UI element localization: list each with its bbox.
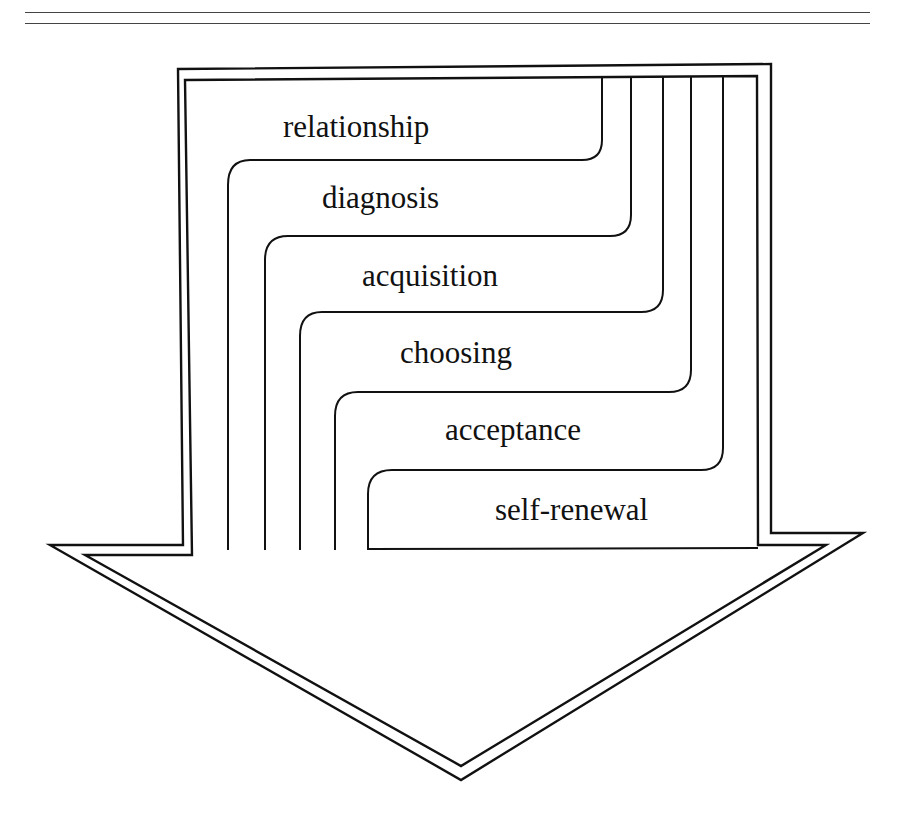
stage-label-choosing: choosing [400, 335, 512, 370]
stage-label-diagnosis: diagnosis [322, 180, 439, 215]
band-divider-1 [228, 77, 602, 550]
stage-label-relationship: relationship [283, 109, 429, 144]
stage-label-acquisition: acquisition [362, 258, 499, 293]
band-divider-4 [335, 77, 691, 550]
stages-arrow-diagram: relationship diagnosis acquisition choos… [0, 0, 910, 815]
stage-label-self-renewal: self-renewal [495, 492, 648, 527]
band-divider-2 [265, 77, 631, 550]
stage-label-acceptance: acceptance [445, 412, 581, 447]
band-divider-3 [300, 77, 663, 550]
